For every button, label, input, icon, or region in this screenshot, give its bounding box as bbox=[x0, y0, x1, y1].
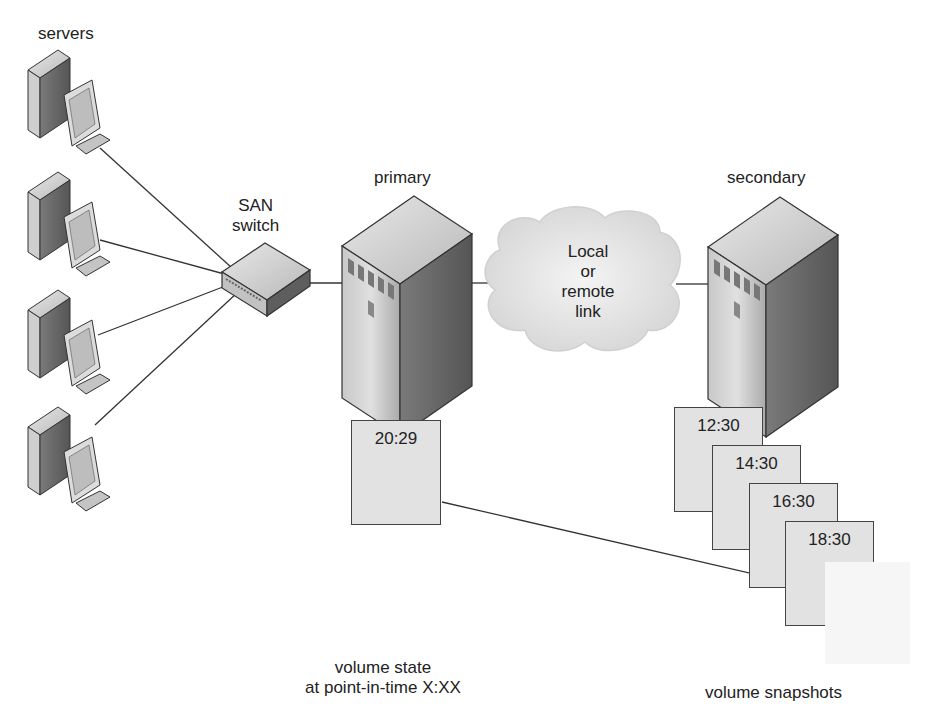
primary-volume: 20:29 bbox=[351, 420, 441, 525]
server-1-icon bbox=[28, 50, 110, 154]
volume-state-label-line2: at point-in-time X:XX bbox=[288, 678, 478, 698]
link-label-line4: link bbox=[548, 302, 628, 322]
san-switch-label-line1: SAN bbox=[232, 196, 279, 216]
san-switch-label: SAN switch bbox=[232, 196, 279, 236]
server-3-icon bbox=[28, 290, 110, 394]
volume-snapshots-label: volume snapshots bbox=[705, 683, 842, 703]
link-label-line1: Local bbox=[548, 242, 628, 262]
link-label-line3: remote bbox=[548, 282, 628, 302]
faded-snapshot-overlay bbox=[825, 562, 910, 664]
snapshot-2-time: 14:30 bbox=[713, 446, 800, 474]
link-label-line2: or bbox=[548, 262, 628, 282]
snapshot-4-time: 18:30 bbox=[786, 522, 873, 550]
san-switch-icon bbox=[222, 243, 310, 316]
secondary-storage-icon bbox=[708, 197, 838, 437]
snapshot-1-time: 12:30 bbox=[675, 408, 762, 436]
secondary-label: secondary bbox=[727, 168, 805, 188]
primary-volume-time: 20:29 bbox=[352, 421, 440, 449]
link-label: Local or remote link bbox=[548, 242, 628, 322]
servers-label: servers bbox=[38, 24, 94, 44]
snapshot-3-time: 16:30 bbox=[750, 484, 837, 512]
volume-state-label: volume state at point-in-time X:XX bbox=[288, 658, 478, 698]
server-2-icon bbox=[28, 172, 110, 276]
primary-storage-icon bbox=[342, 196, 472, 436]
primary-label: primary bbox=[374, 168, 431, 188]
replication-diagram: servers SAN switch primary secondary Loc… bbox=[0, 0, 925, 718]
san-switch-label-line2: switch bbox=[232, 216, 279, 236]
volume-state-label-line1: volume state bbox=[288, 658, 478, 678]
